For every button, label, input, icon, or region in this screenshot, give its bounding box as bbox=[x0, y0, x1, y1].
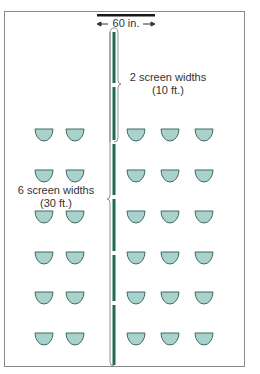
far-distance-line1: 6 screen widths bbox=[6, 184, 106, 197]
seats bbox=[35, 129, 213, 345]
screen-width-label: 60 in. bbox=[104, 17, 148, 30]
near-distance-label: 2 screen widths (10 ft.) bbox=[118, 71, 218, 97]
far-distance-line2: (30 ft.) bbox=[6, 197, 106, 210]
near-distance-line2: (10 ft.) bbox=[118, 84, 218, 97]
near-distance-line1: 2 screen widths bbox=[118, 71, 218, 84]
far-distance-label: 6 screen widths (30 ft.) bbox=[6, 184, 106, 210]
